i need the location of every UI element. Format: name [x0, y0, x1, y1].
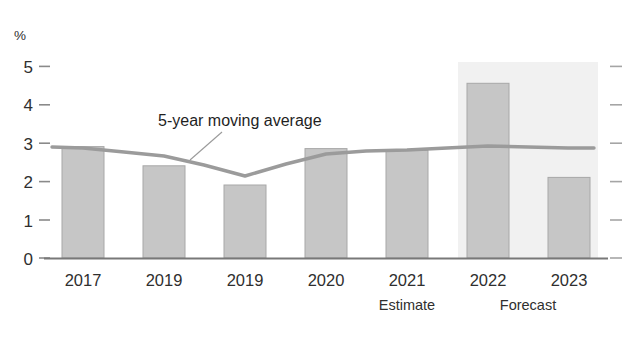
x-label-2022: 2022 [470, 271, 507, 289]
y-tick-label-0: 0 [24, 250, 33, 269]
y-tick-label-5: 5 [24, 58, 33, 77]
moving-average-annotation-label: 5-year moving average [158, 112, 322, 129]
y-tick-label-1: 1 [24, 212, 33, 231]
bar-2019-a [143, 166, 185, 258]
bar-2023 [548, 177, 590, 258]
x-label-2019-a: 2019 [146, 271, 183, 289]
x-label-2023: 2023 [551, 271, 588, 289]
x-sublabel-forecast: Forecast [500, 297, 556, 313]
y-tick-label-3: 3 [24, 135, 33, 154]
chart-container: % 5 4 3 2 1 0 5-year movi [0, 0, 642, 337]
y-tick-label-2: 2 [24, 173, 33, 192]
x-label-2020: 2020 [308, 271, 345, 289]
bar-2020 [305, 149, 347, 258]
x-label-2017: 2017 [65, 271, 102, 289]
bar-2017 [62, 147, 104, 258]
bar-2019-b [224, 185, 266, 258]
bar-line-combo-chart: % 5 4 3 2 1 0 5-year movi [0, 0, 642, 337]
x-sublabel-estimate: Estimate [379, 297, 435, 313]
bar-2022 [467, 83, 509, 258]
x-label-2021: 2021 [389, 271, 426, 289]
y-tick-label-4: 4 [24, 96, 33, 115]
annotation-leader-line [190, 132, 222, 160]
x-label-2019-b: 2019 [227, 271, 264, 289]
bar-2021 [386, 151, 428, 259]
y-axis-unit-label: % [14, 28, 26, 43]
